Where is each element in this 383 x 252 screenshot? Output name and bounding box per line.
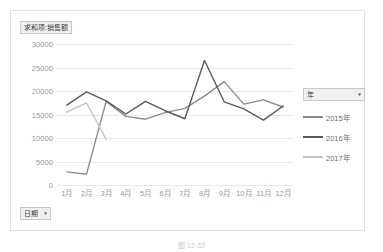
value-field-button[interactable]: 求和项:销售额	[20, 21, 72, 34]
x-axis-tick-label: 12月	[273, 187, 293, 201]
y-axis-tick-label: 30000	[11, 40, 53, 49]
legend-color-swatch	[303, 136, 323, 138]
chevron-down-icon: ▾	[38, 209, 47, 218]
x-axis-tick-label: 8月	[195, 187, 215, 201]
y-axis: 050001000015000200002500030000	[11, 44, 53, 185]
x-axis-tick-label: 6月	[155, 187, 175, 201]
y-axis-tick-label: 20000	[11, 87, 53, 96]
legend-item-label: 2017年	[326, 152, 350, 163]
legend-field-label: 年	[307, 89, 314, 100]
x-axis-tick-label: 4月	[116, 187, 136, 201]
x-axis-tick-label: 2月	[77, 187, 97, 201]
x-axis-tick-label: 10月	[234, 187, 254, 201]
pivot-chart-frame: 求和项:销售额 050001000015000200002500030000 1…	[10, 10, 365, 231]
y-axis-tick-label: 0	[11, 181, 53, 190]
x-axis-tick-label: 5月	[136, 187, 156, 201]
value-field-label: 求和项:销售额	[24, 22, 68, 33]
x-axis-tick-label: 7月	[175, 187, 195, 201]
legend-item[interactable]: 2015年	[303, 107, 371, 127]
chart-legend: 2015年2016年2017年	[303, 107, 371, 167]
screenshot-root: 求和项:销售额 050001000015000200002500030000 1…	[0, 0, 383, 252]
x-axis-tick-label: 11月	[254, 187, 274, 201]
series-lines	[57, 44, 293, 185]
date-field-button[interactable]: 日期 ▾	[20, 207, 51, 220]
legend-color-swatch	[303, 116, 323, 118]
x-axis-tick-label: 1月	[57, 187, 77, 201]
date-field-label: 日期	[24, 208, 38, 219]
legend-item[interactable]: 2017年	[303, 147, 371, 167]
x-axis: 1月2月3月4月5月6月7月8月9月10月11月12月	[57, 187, 293, 201]
legend-field-button[interactable]: 年 ▾	[303, 88, 365, 101]
legend-item-label: 2015年	[326, 112, 350, 123]
y-axis-tick-label: 5000	[11, 157, 53, 166]
x-axis-tick-label: 3月	[96, 187, 116, 201]
legend-item-label: 2016年	[326, 132, 350, 143]
plot-area	[57, 44, 293, 185]
legend-item[interactable]: 2016年	[303, 127, 371, 147]
y-axis-tick-label: 25000	[11, 63, 53, 72]
y-axis-tick-label: 15000	[11, 110, 53, 119]
chevron-down-icon: ▾	[352, 90, 361, 99]
y-axis-tick-label: 10000	[11, 134, 53, 143]
x-axis-tick-label: 9月	[214, 187, 234, 201]
gridline	[57, 185, 293, 186]
figure-caption: 图 12-32	[0, 240, 383, 250]
legend-color-swatch	[303, 156, 323, 158]
